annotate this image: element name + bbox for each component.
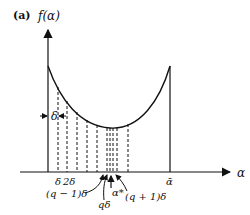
label-q-plus-1-delta: (q + 1)δ: [125, 191, 166, 202]
delta-spacing-label: δ: [51, 110, 58, 123]
tick-label-alpha-bar: ᾱ: [166, 176, 173, 187]
arrow-q-delta: [104, 175, 107, 200]
function-curve: [48, 66, 170, 128]
tick-label-2delta: 2δ: [62, 176, 75, 187]
label-q-minus-1-delta: (q − 1)δ: [46, 188, 87, 199]
y-axis-label: f(α): [37, 9, 60, 23]
label-q-delta: qδ: [98, 199, 110, 210]
x-axis-label: α: [237, 166, 245, 180]
arrow-q-minus-1: [85, 175, 103, 193]
sampling-lines: [58, 87, 128, 172]
diagram-canvas: δ (a) f(α) α δ 2δ ᾱ (q − 1)δ qδ α* (q + …: [0, 0, 250, 215]
label-alpha-star: α*: [112, 187, 124, 198]
panel-label: (a): [13, 9, 31, 22]
tick-label-delta: δ: [55, 176, 61, 187]
